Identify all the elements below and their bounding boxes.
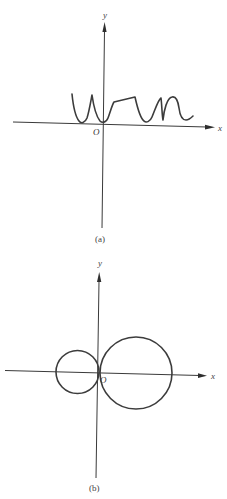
figure-a-caption: (a): [95, 234, 105, 244]
figure-b-caption: (b): [89, 483, 100, 493]
figure-a-y-axis: [102, 30, 105, 228]
figure-b-y-label: y: [97, 258, 102, 268]
figure-canvas: y x O (a) y x O (b): [0, 0, 227, 499]
figure-b-x-arrow-icon: [198, 373, 207, 378]
figure-a: y x O (a): [13, 10, 222, 244]
figure-a-x-arrow-icon: [205, 125, 215, 130]
figure-a-x-axis: [13, 122, 207, 127]
figure-a-curve: [72, 94, 193, 123]
figure-b: y x O (b): [5, 258, 215, 493]
figure-b-y-arrow-icon: [97, 272, 101, 282]
figure-a-y-arrow-icon: [102, 22, 106, 32]
figure-a-x-label: x: [217, 123, 222, 133]
figure-a-origin-label: O: [93, 127, 100, 137]
figure-b-x-label: x: [210, 371, 215, 381]
figure-a-y-label: y: [102, 10, 107, 20]
